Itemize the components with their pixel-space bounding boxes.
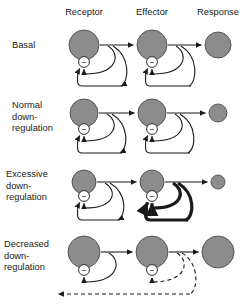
- node-receptor: [68, 236, 100, 268]
- receptor-long-feedback-arrow: [78, 135, 80, 139]
- minus-badge-receptor: −: [79, 124, 90, 135]
- node-effector: [136, 236, 168, 268]
- regulation-diagram: ReceptorEffectorResponse BasalNormaldown…: [0, 0, 252, 307]
- column-header-effector: Effector: [136, 7, 168, 17]
- row-label-line: regulation: [4, 262, 45, 272]
- row-label-line: regulation: [12, 123, 53, 133]
- row-label-line: down-: [4, 251, 29, 261]
- receptor-long-feedback-descend: [113, 46, 127, 86]
- minus-badge-effector: −: [147, 191, 158, 202]
- minus-badge-effector: −: [147, 57, 158, 68]
- minus-badge-receptor: −: [79, 265, 90, 276]
- minus-glyph: −: [82, 58, 87, 67]
- minus-glyph: −: [150, 125, 155, 134]
- rows-layer: −−−−−−−−: [58, 30, 234, 294]
- minus-glyph: −: [82, 192, 87, 201]
- row-decreased-down-regulation: −−: [58, 236, 234, 294]
- row-labels: BasalNormaldown-regulationExcessivedown-…: [4, 40, 53, 272]
- node-effector: [137, 30, 167, 60]
- column-header-receptor: Receptor: [65, 7, 103, 17]
- effector-long-feedback-descend: [180, 114, 194, 153]
- minus-glyph: −: [82, 125, 87, 134]
- minus-glyph: −: [150, 58, 155, 67]
- column-headers: ReceptorEffectorResponse: [65, 7, 239, 17]
- row-label-line: Basal: [12, 40, 35, 50]
- minus-badge-receptor: −: [79, 191, 90, 202]
- row-label-decreased-down-regulation: Decreaseddown-regulation: [4, 239, 49, 272]
- row-label-line: Normal: [12, 100, 42, 110]
- node-response: [209, 104, 227, 122]
- node-response: [211, 175, 225, 189]
- minus-glyph: −: [82, 266, 87, 275]
- node-effector: [138, 99, 166, 127]
- minus-badge-effector: −: [147, 124, 158, 135]
- row-label-basal: Basal: [12, 40, 35, 50]
- receptor-long-feedback-descend: [110, 183, 124, 220]
- row-label-line: Excessive: [6, 169, 48, 179]
- receptor-long-feedback-descend: [112, 114, 126, 153]
- minus-glyph: −: [150, 192, 155, 201]
- node-response: [202, 236, 234, 268]
- effector-long-feedback-descend: [182, 253, 196, 294]
- row-normal-down-regulation: −−: [70, 99, 227, 153]
- effector-long-feedback-arrow: [146, 135, 148, 139]
- row-label-line: Decreased: [4, 239, 49, 249]
- row-label-line: down-: [6, 181, 31, 191]
- effector-long-feedback-arrow: [146, 202, 148, 206]
- minus-badge-receptor: −: [79, 57, 90, 68]
- row-label-excessive-down-regulation: Excessivedown-regulation: [6, 169, 48, 202]
- row-label-line: regulation: [6, 192, 47, 202]
- column-header-response: Response: [197, 7, 239, 17]
- minus-badge-effector: −: [147, 265, 158, 276]
- node-receptor: [70, 99, 98, 127]
- minus-glyph: −: [150, 266, 155, 275]
- node-response: [205, 32, 231, 58]
- receptor-long-feedback-arrow: [78, 68, 80, 72]
- row-basal: −−: [69, 30, 231, 86]
- effector-long-feedback-arrow: [146, 68, 148, 72]
- row-excessive-down-regulation: −−: [72, 170, 225, 220]
- diagram-canvas: ReceptorEffectorResponse BasalNormaldown…: [0, 0, 252, 307]
- receptor-long-feedback-arrow: [78, 202, 80, 206]
- row-label-normal-down-regulation: Normaldown-regulation: [12, 100, 53, 133]
- effector-long-feedback-descend: [181, 46, 195, 86]
- node-receptor: [69, 30, 99, 60]
- row-label-line: down-: [12, 112, 37, 122]
